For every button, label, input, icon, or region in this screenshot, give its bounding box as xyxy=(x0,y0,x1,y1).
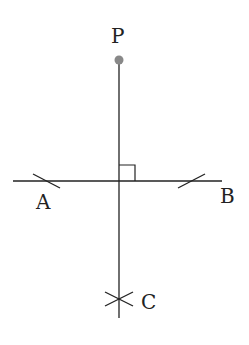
right-angle-marker xyxy=(119,165,135,181)
point-p xyxy=(115,56,124,65)
label-c: C xyxy=(141,292,156,312)
label-a: A xyxy=(36,192,50,212)
label-b: B xyxy=(220,186,235,206)
geometry-diagram: P A B C xyxy=(0,0,249,345)
label-p: P xyxy=(111,26,124,46)
construction-drawing xyxy=(0,0,249,345)
